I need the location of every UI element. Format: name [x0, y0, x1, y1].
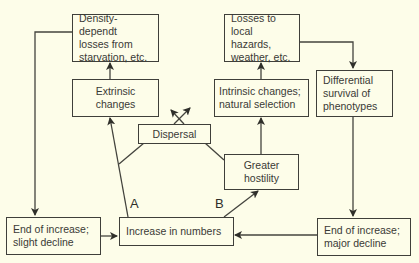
node-differential-survival: Differential survival of phenotypes: [316, 70, 393, 117]
node-label: Differential survival of phenotypes: [323, 74, 377, 113]
node-intrinsic-changes: Intrinsic changes; natural selection: [214, 79, 309, 117]
path-label-a: A: [130, 196, 139, 211]
node-greater-hostility: Greater hostility: [224, 154, 299, 190]
node-label: Greater hostility: [244, 159, 280, 185]
node-extrinsic-changes: Extrinsic changes: [72, 79, 159, 117]
node-label: Intrinsic changes; natural selection: [219, 85, 301, 111]
node-label: Density-dependt losses from starvation, …: [79, 12, 152, 64]
node-end-major-decline: End of increase; major decline: [317, 218, 411, 256]
node-losses-local-hazards: Losses to local hazards, weather, etc.: [224, 14, 300, 62]
node-label: Dispersal: [153, 128, 197, 141]
node-end-slight-decline: End of increase; slight decline: [6, 217, 101, 255]
node-label: Increase in numbers: [126, 225, 221, 238]
path-label-b: B: [215, 196, 224, 211]
node-label: Extrinsic changes: [96, 85, 136, 111]
node-density-dependent-losses: Density-dependt losses from starvation, …: [72, 14, 159, 62]
node-label: End of increase; slight decline: [13, 223, 89, 249]
node-increase-in-numbers: Increase in numbers: [119, 217, 234, 246]
node-dispersal: Dispersal: [138, 124, 211, 144]
node-label: Losses to local hazards, weather, etc.: [231, 12, 293, 64]
node-label: End of increase; major decline: [324, 224, 400, 250]
